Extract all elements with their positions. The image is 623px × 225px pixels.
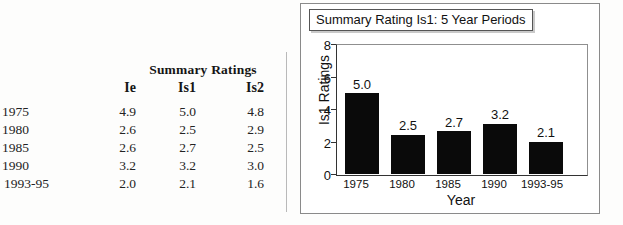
panel-divider — [286, 52, 287, 212]
cell-is2: 2.9 — [220, 122, 264, 138]
column-header-ie: Ie — [92, 80, 136, 96]
y-tick-label: 8 — [311, 38, 331, 53]
bar-chart-panel: Summary Rating Is1: 5 Year Periods Is1 R… — [300, 3, 600, 214]
y-tick-mark — [331, 109, 336, 110]
cell-is1: 2.1 — [152, 176, 196, 192]
table-row: 1993-95 2.0 2.1 1.6 — [0, 176, 287, 194]
bar — [483, 124, 517, 174]
table-row: 1985 2.6 2.7 2.5 — [0, 140, 287, 158]
y-tick-label: 4 — [311, 103, 331, 118]
y-tick-mark — [331, 44, 336, 45]
cell-ie: 4.9 — [92, 104, 136, 120]
row-year: 1980 — [2, 122, 29, 138]
bar-value-label: 2.1 — [519, 125, 573, 140]
bar-value-label: 5.0 — [335, 77, 389, 92]
bar-group: 3.2 — [483, 45, 517, 174]
bar-series: 5.0 2.5 2.7 3.2 2.1 — [337, 45, 585, 174]
cell-is1: 5.0 — [152, 104, 196, 120]
y-tick-mark — [331, 174, 336, 175]
x-axis-label: Year — [336, 192, 586, 208]
bar-group: 2.1 — [529, 45, 563, 174]
cell-ie: 3.2 — [92, 158, 136, 174]
figure-root: Summary Ratings Ie Is1 Is2 1975 4.9 5.0 … — [0, 0, 623, 225]
y-tick-mark — [331, 142, 336, 143]
table-row: 1990 3.2 3.2 3.0 — [0, 158, 287, 176]
y-tick-label: 6 — [311, 71, 331, 86]
bar-group: 2.5 — [391, 45, 425, 174]
y-tick-label: 2 — [311, 136, 331, 151]
bar — [437, 131, 471, 174]
y-axis-label: Is1 Ratings — [316, 40, 332, 140]
cell-ie: 2.0 — [92, 176, 136, 192]
cell-is1: 2.5 — [152, 122, 196, 138]
cell-is2: 2.5 — [220, 140, 264, 156]
bar — [529, 142, 563, 174]
cell-ie: 2.6 — [92, 140, 136, 156]
x-tick-label: 1980 — [377, 178, 427, 190]
plot-area: Is1 Ratings 8 6 4 2 0 5.0 2.5 — [301, 4, 599, 213]
cell-is1: 3.2 — [152, 158, 196, 174]
x-tick-label: 1985 — [423, 178, 473, 190]
column-header-is1: Is1 — [152, 80, 196, 96]
table-row: 1980 2.6 2.5 2.9 — [0, 122, 287, 140]
summary-ratings-table: Summary Ratings Ie Is1 Is2 1975 4.9 5.0 … — [0, 0, 287, 225]
y-tick-label: 0 — [311, 168, 331, 183]
x-tick-label: 1975 — [331, 178, 381, 190]
bar-value-label: 3.2 — [473, 107, 527, 122]
table-row: 1975 4.9 5.0 4.8 — [0, 104, 287, 122]
cell-ie: 2.6 — [92, 122, 136, 138]
cell-is2: 3.0 — [220, 158, 264, 174]
cell-is2: 1.6 — [220, 176, 264, 192]
row-year: 1985 — [2, 140, 29, 156]
cell-is1: 2.7 — [152, 140, 196, 156]
x-tick-label: 1993-95 — [513, 178, 571, 190]
bar — [345, 93, 379, 174]
row-year: 1990 — [2, 158, 29, 174]
cell-is2: 4.8 — [220, 104, 264, 120]
bar — [391, 135, 425, 175]
row-year: 1975 — [2, 104, 29, 120]
table-group-header: Summary Ratings — [133, 62, 273, 78]
column-header-is2: Is2 — [220, 80, 264, 96]
bar-group: 2.7 — [437, 45, 471, 174]
row-year: 1993-95 — [4, 176, 49, 192]
x-tick-label: 1990 — [469, 178, 519, 190]
bar-group: 5.0 — [345, 45, 379, 174]
